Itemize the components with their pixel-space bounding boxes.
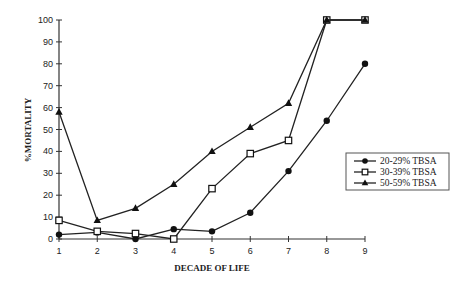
square-marker: [56, 217, 62, 223]
square-marker: [94, 228, 100, 234]
mortality-line-chart: 0102030405060708090100 123456789 %MORTAL…: [0, 0, 466, 282]
x-tick-label: 4: [171, 246, 176, 256]
y-tick-label: 40: [43, 146, 53, 156]
y-tick-label: 80: [43, 59, 53, 69]
x-tick-label: 6: [248, 246, 253, 256]
x-axis: 123456789: [56, 236, 367, 256]
x-tick-label: 5: [209, 246, 214, 256]
y-tick-label: 90: [43, 37, 53, 47]
triangle-marker: [132, 204, 139, 211]
triangle-marker: [285, 99, 292, 106]
circle-marker: [56, 231, 62, 237]
legend-label: 20-29% TBSA: [380, 156, 437, 166]
y-axis: 0102030405060708090100: [38, 15, 62, 244]
x-tick-label: 3: [133, 246, 138, 256]
y-tick-label: 70: [43, 81, 53, 91]
y-tick-label: 30: [43, 168, 53, 178]
legend-label: 50-59% TBSA: [380, 178, 437, 188]
square-marker: [285, 137, 291, 143]
y-tick-label: 100: [38, 15, 53, 25]
y-axis-title: %MORTALITY: [23, 97, 33, 162]
series-layer: [55, 16, 368, 242]
y-tick-label: 10: [43, 212, 53, 222]
triangle-marker: [247, 123, 254, 130]
x-tick-label: 8: [324, 246, 329, 256]
y-tick-label: 60: [43, 103, 53, 113]
legend-label: 30-39% TBSA: [380, 167, 437, 177]
square-marker: [247, 150, 253, 156]
x-tick-label: 7: [286, 246, 291, 256]
circle-marker: [362, 158, 368, 164]
circle-marker: [285, 168, 291, 174]
circle-marker: [362, 61, 368, 67]
square-marker: [132, 230, 138, 236]
x-tick-label: 2: [95, 246, 100, 256]
square-marker: [171, 236, 177, 242]
x-tick-label: 9: [362, 246, 367, 256]
triangle-marker: [208, 147, 215, 154]
triangle-marker: [55, 108, 62, 115]
circle-marker: [324, 118, 330, 124]
y-tick-label: 0: [48, 234, 53, 244]
x-axis-title: DECADE OF LIFE: [174, 263, 250, 273]
x-tick-label: 1: [56, 246, 61, 256]
circle-marker: [247, 210, 253, 216]
legend: 20-29% TBSA30-39% TBSA50-59% TBSA: [346, 153, 449, 190]
y-tick-label: 50: [43, 125, 53, 135]
circle-marker: [171, 226, 177, 232]
square-marker: [209, 185, 215, 191]
y-tick-label: 20: [43, 190, 53, 200]
series-square: [56, 17, 368, 242]
square-marker: [362, 169, 368, 175]
circle-marker: [209, 228, 215, 234]
